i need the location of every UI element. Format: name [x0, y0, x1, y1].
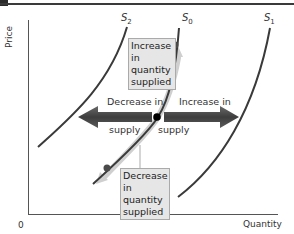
- label-line: supplied: [131, 76, 173, 88]
- point-center: [153, 113, 161, 121]
- label-line: Decrease in: [123, 170, 167, 194]
- y-axis-label: Price: [4, 26, 14, 48]
- label-line: Increase in: [131, 40, 173, 64]
- curve-subscript: 2: [127, 18, 131, 26]
- increase-supply-label-top: Increase in: [179, 96, 231, 107]
- decrease-quantity-supplied-label: Decrease in quantity supplied: [120, 168, 170, 220]
- decrease-supply-label-bottom: supply: [109, 124, 140, 135]
- x-axis-label: Quantity: [243, 219, 282, 229]
- label-line: supplied: [123, 206, 167, 218]
- increase-supply-label-bottom: supply: [158, 124, 189, 135]
- curve-subscript: 0: [188, 18, 192, 26]
- label-line: quantity: [131, 64, 173, 76]
- curve-label-s0: S0: [182, 12, 193, 26]
- increase-quantity-supplied-label: Increase in quantity supplied: [128, 38, 176, 90]
- curve-label-s1: S1: [264, 12, 275, 26]
- curve-subscript: 1: [270, 18, 274, 26]
- label-line: quantity: [123, 194, 167, 206]
- curve-label-s2: S2: [121, 12, 132, 26]
- point-lower: [104, 165, 111, 172]
- origin-label: 0: [18, 220, 24, 230]
- decrease-supply-label-top: Decrease in: [107, 96, 163, 107]
